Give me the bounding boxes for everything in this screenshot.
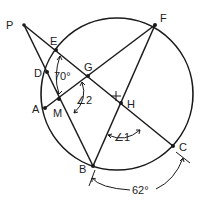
label-m: M	[53, 107, 62, 119]
point-m	[57, 97, 61, 101]
label-g: G	[84, 61, 93, 73]
arc-62-dimension	[92, 178, 130, 190]
arc-62-label: 62°	[132, 184, 149, 196]
point-p	[22, 23, 26, 27]
point-b	[91, 164, 95, 168]
label-f: F	[160, 12, 167, 24]
label-c: C	[179, 141, 187, 153]
point-g	[86, 74, 90, 78]
arc-62-tick-c	[176, 152, 190, 163]
point-h	[119, 101, 123, 105]
point-c	[171, 144, 175, 148]
label-b: B	[79, 163, 86, 175]
label-h: H	[127, 98, 135, 110]
line-af	[45, 25, 155, 108]
label-p: P	[6, 19, 13, 31]
point-a	[43, 106, 47, 110]
angle-1-label: ∠1	[114, 131, 130, 143]
point-e	[54, 48, 58, 52]
line-pc	[24, 25, 173, 146]
point-d	[45, 70, 49, 74]
circle-geometry-diagram: P E D G A M H B C F 70° ∠2 ∠1	[0, 0, 205, 202]
arc-62-dimension-right	[156, 158, 183, 189]
label-a: A	[32, 103, 40, 115]
point-f	[153, 23, 157, 27]
angle-2-label: ∠2	[76, 94, 92, 106]
line-bf	[93, 25, 155, 166]
label-e: E	[50, 35, 57, 47]
angle-70-label: 70°	[54, 70, 71, 82]
label-d: D	[34, 67, 42, 79]
